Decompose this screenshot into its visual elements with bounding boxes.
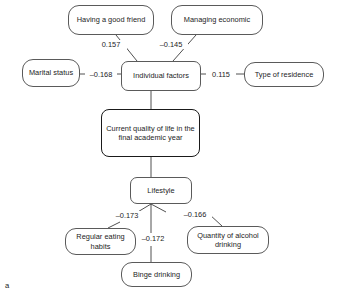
edge-label-lifestyle-to-eating: –0.173 (110, 211, 144, 220)
node-label: Regular eating habits (68, 232, 133, 250)
node-label: Current quality of life in the final aca… (104, 124, 197, 142)
node-individual-factors[interactable]: Individual factors (121, 61, 201, 91)
edge-lifestyle-to-alcohol-upper (151, 204, 166, 212)
node-current-quality-of-life[interactable]: Current quality of life in the final aca… (101, 109, 200, 157)
edge-label-lifestyle-to-binge: –0.172 (136, 234, 170, 243)
edge-label-marital-to-individual: –0.168 (85, 70, 117, 79)
node-label: Binge drinking (133, 270, 180, 279)
node-binge-drinking[interactable]: Binge drinking (121, 262, 192, 287)
node-having-a-good-friend[interactable]: Having a good friend (68, 5, 154, 35)
node-type-of-residence[interactable]: Type of residence (244, 62, 324, 87)
edge-label-friend-to-individual: 0.157 (95, 40, 127, 49)
node-label: Marital status (29, 68, 73, 77)
panel-label: a (5, 281, 9, 290)
node-label: Individual factors (133, 71, 189, 80)
node-quantity-of-alcohol-drinking[interactable]: Quantity of alcohol drinking (187, 226, 269, 254)
edge-label-lifestyle-to-alcohol: –0.166 (178, 210, 212, 219)
path-diagram-figure: Having a good friend Managing economic M… (0, 0, 337, 300)
node-label: Type of residence (255, 70, 314, 79)
node-label: Having a good friend (77, 15, 146, 24)
edge-label-economic-to-individual: –0.145 (154, 40, 188, 49)
node-label: Quantity of alcohol drinking (190, 231, 266, 249)
edge-label-individual-to-residence: 0.115 (206, 70, 236, 79)
node-lifestyle[interactable]: Lifestyle (130, 177, 192, 204)
node-label: Lifestyle (147, 186, 174, 195)
node-label: Managing economic (184, 15, 250, 24)
node-regular-eating-habits[interactable]: Regular eating habits (65, 228, 136, 255)
node-managing-economic[interactable]: Managing economic (171, 5, 263, 35)
node-marital-status[interactable]: Marital status (22, 59, 80, 87)
